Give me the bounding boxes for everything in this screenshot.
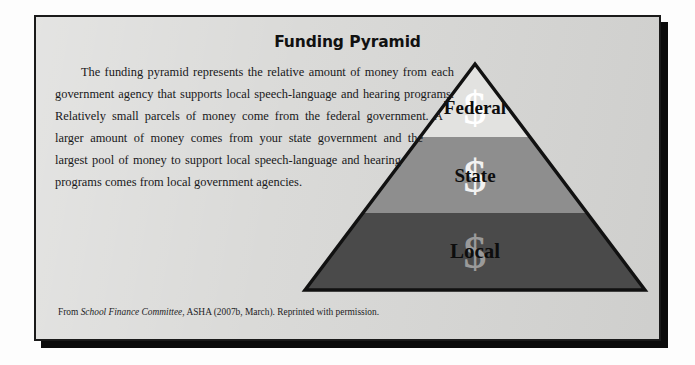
wrap-spacer — [379, 171, 455, 193]
figure-title: Funding Pyramid — [36, 33, 659, 51]
figure-body-paragraph-text: The funding pyramid represents the relat… — [55, 65, 454, 189]
figure-caption: From School Finance Committee, ASHA (200… — [58, 306, 618, 319]
wrap-spacer — [295, 260, 455, 282]
pyramid-tier-label-state: State — [454, 165, 495, 186]
wrap-spacer — [443, 105, 455, 127]
figure-body-paragraph: The funding pyramid represents the relat… — [55, 61, 455, 282]
wrap-spacer — [454, 83, 455, 105]
wrap-spacer — [357, 194, 455, 216]
wrap-spacer — [315, 238, 455, 260]
funding-pyramid-figure: Funding Pyramid The funding pyramid repr… — [34, 15, 661, 341]
caption-suffix: , ASHA (2007b, March). Reprinted with pe… — [182, 307, 379, 317]
wrap-spacer — [401, 149, 455, 171]
wrap-spacer — [337, 216, 455, 238]
caption-prefix: From — [58, 307, 81, 317]
wrap-spacer — [454, 61, 455, 83]
pyramid-tier-label-local: Local — [450, 239, 500, 263]
caption-source-title: School Finance Committee — [81, 307, 183, 317]
wrap-spacer — [423, 127, 455, 149]
